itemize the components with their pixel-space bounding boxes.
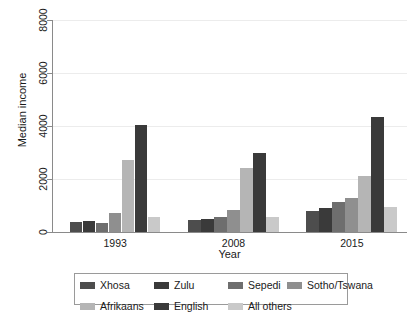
legend-item-all-others[interactable]: All others — [228, 301, 292, 312]
y-axis-tick-label: 4000 — [37, 114, 49, 137]
legend-item-sotho-tswana[interactable]: Sotho/Tswana — [287, 280, 373, 291]
legend-row: XhosaZuluSepediSotho/Tswana — [80, 278, 342, 292]
bar-xhosa-1993 — [70, 222, 83, 232]
bar-xhosa-2008 — [188, 220, 201, 232]
gridline — [53, 126, 407, 127]
gridline — [53, 179, 407, 180]
chart-legend: XhosaZuluSepediSotho/TswanaAfrikaansEngl… — [74, 273, 348, 305]
bar-sepedi-1993 — [96, 223, 109, 232]
legend-item-afrikaans[interactable]: Afrikaans — [80, 301, 144, 312]
bar-sotho-tswana-1993 — [109, 213, 122, 232]
bar-zulu-2008 — [201, 219, 214, 232]
x-axis-line — [52, 232, 407, 233]
gridline — [53, 20, 407, 21]
legend-label: English — [174, 301, 208, 312]
bar-english-2015 — [371, 117, 384, 232]
y-axis-tick-label: 6000 — [37, 61, 49, 84]
y-axis-tick-label: 8000 — [37, 8, 49, 31]
legend-label: Sepedi — [248, 280, 281, 291]
legend-item-english[interactable]: English — [154, 301, 208, 312]
bar-sotho-tswana-2008 — [227, 210, 240, 232]
x-axis-title: Year — [52, 248, 407, 260]
legend-item-xhosa[interactable]: Xhosa — [80, 280, 130, 291]
bar-all-others-1993 — [148, 217, 161, 232]
bar-afrikaans-2015 — [358, 176, 371, 232]
bar-afrikaans-1993 — [122, 160, 135, 232]
legend-label: Xhosa — [100, 280, 130, 291]
legend-swatch-icon — [80, 303, 95, 310]
bar-english-2008 — [253, 153, 266, 233]
bar-zulu-2015 — [319, 208, 332, 232]
plot-area: 02000400060008000199320082015 — [52, 20, 407, 233]
gridline — [53, 73, 407, 74]
y-axis-tick-label: 2000 — [37, 167, 49, 190]
legend-label: Zulu — [174, 280, 194, 291]
legend-swatch-icon — [80, 282, 95, 289]
bar-all-others-2015 — [384, 207, 397, 232]
legend-label: All others — [248, 301, 292, 312]
bar-english-1993 — [135, 125, 148, 232]
bar-afrikaans-2008 — [240, 168, 253, 232]
legend-swatch-icon — [287, 282, 302, 289]
legend-item-zulu[interactable]: Zulu — [154, 280, 194, 291]
y-axis-title: Median income — [16, 40, 28, 180]
legend-row: AfrikaansEnglishAll others — [80, 292, 342, 306]
bar-sotho-tswana-2015 — [345, 198, 358, 232]
bar-all-others-2008 — [266, 217, 279, 232]
legend-swatch-icon — [228, 282, 243, 289]
legend-label: Afrikaans — [100, 301, 144, 312]
legend-label: Sotho/Tswana — [307, 280, 373, 291]
legend-swatch-icon — [154, 282, 169, 289]
bar-zulu-1993 — [83, 221, 96, 232]
bar-xhosa-2015 — [306, 211, 319, 232]
legend-swatch-icon — [154, 303, 169, 310]
bar-sepedi-2008 — [214, 217, 227, 232]
chart-figure: Median income 02000400060008000199320082… — [0, 0, 419, 316]
plot-canvas: 02000400060008000199320082015 — [52, 20, 407, 233]
y-axis-tick-label: 0 — [37, 229, 49, 235]
legend-item-sepedi[interactable]: Sepedi — [228, 280, 281, 291]
legend-swatch-icon — [228, 303, 243, 310]
bar-sepedi-2015 — [332, 202, 345, 232]
